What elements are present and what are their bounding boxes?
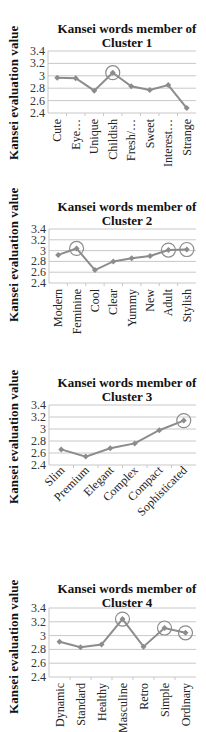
data-point-marker <box>183 630 189 636</box>
y-tick-label: 3.4 <box>31 601 46 615</box>
x-category-label: Standard <box>74 683 88 726</box>
y-tick-label: 3.2 <box>31 615 46 629</box>
x-category-label: Healthy <box>95 683 109 721</box>
y-tick-label: 2.8 <box>31 642 46 656</box>
x-category-label: Simple <box>158 683 172 717</box>
x-category-label: Dynamic <box>53 683 67 727</box>
x-category-label: Retro <box>137 683 151 710</box>
x-category-label: Ordinary <box>179 683 193 726</box>
data-point-marker <box>57 639 63 645</box>
y-tick-label: 3 <box>40 629 46 643</box>
line-plot: 3.43.232.82.62.4DynamicStandardHealthyMa… <box>0 0 206 732</box>
data-line <box>60 619 186 647</box>
y-tick-label: 2.4 <box>31 670 46 684</box>
y-tick-label: 2.6 <box>31 656 46 670</box>
chart-cluster-4: Kansei evaluation value Kansei words mem… <box>0 0 206 732</box>
x-category-label: Masculine <box>116 683 130 732</box>
